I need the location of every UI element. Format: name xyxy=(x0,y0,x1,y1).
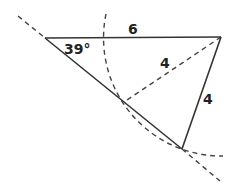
dashed-extension-lower xyxy=(182,149,220,181)
dashed-extension-upper xyxy=(18,16,45,38)
side-right-4 xyxy=(182,37,221,149)
dashed-side-label: 4 xyxy=(160,55,170,71)
top-side-label: 6 xyxy=(128,21,138,37)
side-top-6 xyxy=(45,37,221,38)
triangle-diagram: 39° 6 4 4 xyxy=(0,0,234,190)
angle-label: 39° xyxy=(64,41,90,57)
right-side-label: 4 xyxy=(203,91,213,107)
